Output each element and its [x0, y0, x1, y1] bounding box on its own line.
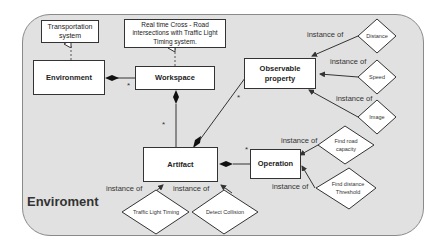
multiplicity-workspace-artifact: * — [162, 120, 165, 129]
class-artifact: Artifact — [143, 147, 218, 182]
class-realtime-system: Real time Cross - Road intersections wit… — [124, 19, 226, 48]
label-instance-of-distance-threshold: instance of — [272, 182, 308, 191]
multiplicity-env-workspace: * — [127, 81, 130, 90]
class-observable-property: Observable property — [244, 58, 316, 89]
instance-image: Image — [360, 109, 394, 125]
frame-title: Enviroment — [27, 194, 99, 209]
instance-traffic-light-timing: Traffic Light Timing — [126, 205, 186, 219]
label-instance-of-detect-collision: instance of — [173, 184, 209, 193]
instance-find-road-capacity: Find road capacity — [327, 135, 365, 155]
label-instance-of-traffic-light: instance of — [106, 184, 142, 193]
class-transportation-system: Transportation system — [41, 20, 99, 43]
instance-distance: Distance — [360, 28, 394, 44]
class-workspace: Workspace — [135, 66, 215, 90]
label-instance-of-image: instance of — [336, 94, 372, 103]
multiplicity-observable-artifact: * — [237, 93, 240, 102]
class-operation: Operation — [250, 149, 301, 179]
instance-find-distance-threshold: Find distance Threshold — [321, 177, 375, 199]
label-instance-of-road-capacity: instance of — [281, 136, 317, 145]
label-instance-of-distance: instance of — [307, 30, 343, 39]
instance-speed: Speed — [360, 69, 394, 85]
multiplicity-artifact-operation: * — [245, 145, 248, 154]
class-environment: Environment — [33, 60, 105, 95]
instance-detect-collision: Detect Collision — [196, 205, 254, 219]
label-instance-of-speed: instance of — [330, 57, 366, 66]
